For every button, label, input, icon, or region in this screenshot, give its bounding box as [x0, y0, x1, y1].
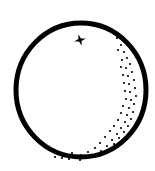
stipple-dot [124, 121, 126, 123]
stipple-dot [99, 142, 101, 144]
stipple-dot [71, 152, 73, 154]
stipple-dot [127, 75, 129, 77]
stipple-dot [131, 71, 133, 73]
stipple-dot [122, 105, 124, 107]
stipple-dot [134, 87, 136, 89]
stipple-dot [127, 125, 129, 127]
stipple-dot [120, 112, 122, 114]
stipple-dot [117, 119, 119, 121]
stipple-dot [118, 137, 120, 139]
stipple-dot [123, 131, 125, 133]
stipple-dot [124, 90, 126, 92]
stipple-dot [94, 147, 96, 149]
stipple-dot [122, 74, 124, 76]
stipple-dot [111, 139, 113, 141]
stipple-dot [113, 125, 115, 127]
stipple-dot [126, 57, 128, 59]
stipple-dot [120, 127, 122, 129]
stipple-dot [87, 151, 89, 153]
stipple-dot [61, 157, 63, 159]
stipple-dot [121, 59, 123, 61]
stipple-dot [135, 95, 137, 97]
stipple-dot [129, 63, 131, 65]
stipple-dot [104, 136, 106, 138]
stipple-dot [126, 114, 128, 116]
orange-fruit-icon [0, 0, 155, 171]
stipple-dot [128, 107, 130, 109]
stipple-dot [130, 118, 132, 120]
stipple-dot [129, 91, 131, 93]
stipple-dot [106, 145, 108, 147]
stipple-dot [109, 130, 111, 132]
stipple-dot [117, 49, 119, 51]
stipple-dot [132, 111, 134, 113]
stipple-dot [123, 51, 125, 53]
stipple-dot [54, 156, 56, 158]
stipple-dot [133, 103, 135, 105]
stipple-dot [116, 133, 118, 135]
stipple-dot [133, 79, 135, 81]
stipple-dot [125, 67, 127, 69]
stipple-dot [125, 98, 127, 100]
stipple-dot [123, 82, 125, 84]
stipple-dot [128, 83, 130, 85]
orange-illustration [0, 0, 155, 171]
stipple-dot [120, 66, 122, 68]
stipple-dot [130, 99, 132, 101]
stipple-dot [120, 44, 122, 46]
four-point-star-icon [74, 34, 86, 46]
